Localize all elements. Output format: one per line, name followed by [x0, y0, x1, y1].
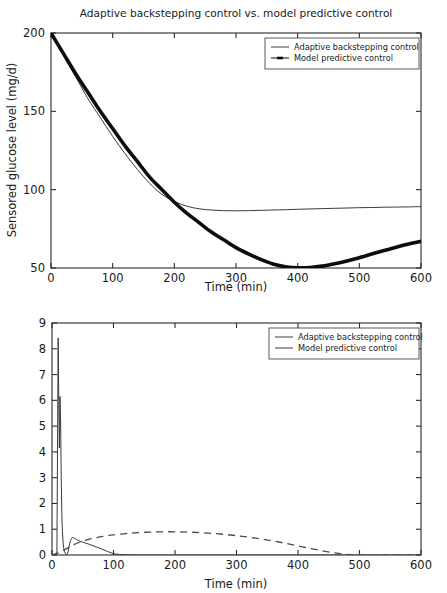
chart-panel-insulin: 01002003004005006000123456789 Time (min)… [0, 300, 447, 593]
x-tick-label: 100 [103, 558, 125, 572]
y-tick-label: 6 [39, 393, 46, 407]
chart-panel-glucose: Adaptive backstepping control vs. model … [0, 0, 447, 300]
glucose-legend[interactable]: Adaptive backstepping controlModel predi… [265, 38, 419, 69]
legend-item-label[interactable]: Model predictive control [298, 343, 397, 353]
figure-root: Adaptive backstepping control vs. model … [0, 0, 447, 593]
y-tick-label: 50 [30, 261, 45, 275]
insulin-series-group [52, 338, 421, 555]
y-tick-label: 7 [39, 368, 46, 382]
y-tick-label: 100 [23, 183, 45, 197]
y-tick-label: 2 [39, 496, 46, 510]
x-tick-label: 500 [349, 558, 371, 572]
chart-title: Adaptive backstepping control vs. model … [80, 7, 393, 19]
x-tick-label: 600 [410, 271, 432, 285]
legend-item-label[interactable]: Model predictive control [294, 53, 393, 63]
legend-item-label[interactable]: Adaptive backstepping control [298, 332, 423, 342]
x-tick-label: 0 [47, 271, 54, 285]
x-axis-label: Time (min) [204, 280, 267, 294]
x-axis-label: Time (min) [204, 577, 267, 591]
insulin-chart-svg: 01002003004005006000123456789 Time (min)… [0, 300, 447, 593]
y-tick-label: 0 [39, 548, 46, 562]
x-tick-label: 200 [164, 558, 186, 572]
series-line-adaptive-backstepping-control [52, 338, 421, 555]
y-tick-label: 8 [39, 342, 46, 356]
x-tick-label: 200 [163, 271, 185, 285]
y-tick-label: 150 [23, 104, 45, 118]
x-tick-label: 400 [287, 558, 309, 572]
x-tick-label: 600 [410, 558, 432, 572]
x-tick-label: 300 [226, 558, 248, 572]
insulin-legend[interactable]: Adaptive backstepping controlModel predi… [269, 328, 423, 359]
y-tick-label: 3 [39, 471, 46, 485]
legend-item-label[interactable]: Adaptive backstepping control [294, 42, 419, 52]
glucose-chart-svg: Adaptive backstepping control vs. model … [0, 0, 447, 300]
y-tick-label: 9 [39, 316, 46, 330]
x-tick-label: 400 [287, 271, 309, 285]
x-tick-label: 100 [102, 271, 124, 285]
x-tick-label: 500 [348, 271, 370, 285]
y-tick-label: 200 [23, 26, 45, 40]
y-tick-label: 5 [39, 419, 46, 433]
y-axis-label: Sensored glucose level (mg/d) [5, 63, 19, 238]
y-tick-label: 1 [39, 522, 46, 536]
x-tick-label: 0 [48, 558, 55, 572]
y-tick-label: 4 [39, 445, 46, 459]
